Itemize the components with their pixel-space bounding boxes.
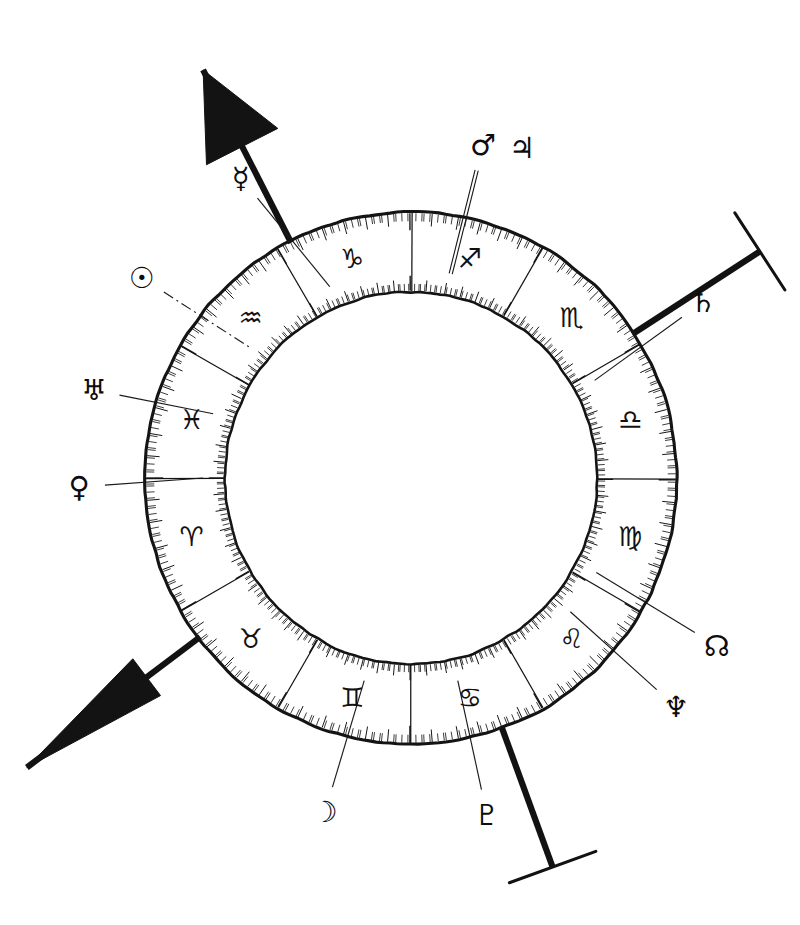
inner-degree-tick <box>217 463 224 464</box>
outer-degree-tick <box>147 498 155 499</box>
outer-degree-tick <box>628 337 635 341</box>
outer-degree-tick <box>597 655 603 661</box>
outer-degree-tick <box>655 396 663 398</box>
outer-degree-tick <box>659 523 671 525</box>
outer-degree-tick <box>661 415 669 417</box>
outer-degree-tick <box>185 341 192 345</box>
inner-degree-tick <box>248 580 254 584</box>
outer-degree-tick <box>657 404 665 406</box>
outer-degree-tick <box>346 727 348 735</box>
outer-degree-tick <box>598 297 604 302</box>
outer-degree-tick <box>620 324 626 329</box>
inner-degree-tick <box>426 665 427 676</box>
inner-degree-tick <box>272 611 280 619</box>
outer-degree-tick <box>147 456 159 457</box>
inner-degree-tick <box>223 431 230 433</box>
inner-degree-tick <box>357 291 359 298</box>
inner-degree-tick <box>238 563 244 566</box>
inner-degree-tick <box>579 560 585 563</box>
outer-degree-tick <box>365 727 367 739</box>
inner-degree-tick <box>566 370 572 374</box>
inner-degree-tick <box>450 288 451 295</box>
inner-degree-tick <box>426 280 427 291</box>
inner-degree-tick <box>342 297 345 304</box>
inner-degree-tick <box>388 285 389 292</box>
outer-degree-tick <box>226 288 232 294</box>
outer-degree-tick <box>202 636 208 641</box>
outer-degree-tick <box>665 517 673 518</box>
outer-degree-tick <box>151 527 159 529</box>
outer-degree-tick <box>497 229 501 241</box>
outer-degree-tick <box>148 450 156 451</box>
inner-degree-tick <box>561 591 567 595</box>
inner-degree-tick <box>372 661 373 668</box>
inner-degree-tick <box>597 454 604 455</box>
outer-degree-tick <box>662 453 674 454</box>
outer-degree-tick <box>648 375 655 378</box>
outer-degree-tick <box>612 314 618 319</box>
outer-degree-tick <box>266 257 270 264</box>
outer-degree-tick <box>472 221 474 229</box>
outer-degree-tick <box>555 259 559 266</box>
outer-degree-tick <box>568 268 573 274</box>
inner-degree-tick <box>216 509 227 511</box>
outer-degree-tick <box>667 451 675 452</box>
outer-degree-tick <box>655 543 667 546</box>
inner-degree-tick <box>594 438 601 439</box>
outer-degree-tick <box>657 402 665 404</box>
inner-degree-tick <box>583 402 589 405</box>
inner-degree-tick <box>460 659 463 670</box>
inner-degree-tick <box>373 662 374 669</box>
inner-degree-tick <box>373 288 374 295</box>
inner-degree-tick <box>342 653 345 660</box>
planet-glyph-saturn: ♄ <box>690 285 716 319</box>
outer-degree-tick <box>189 334 196 338</box>
inner-degree-tick <box>554 350 562 357</box>
inner-degree-tick <box>495 304 498 310</box>
outer-degree-tick <box>456 217 458 229</box>
inner-degree-tick <box>279 615 284 620</box>
inner-degree-tick <box>529 327 533 332</box>
inner-degree-tick <box>357 658 359 665</box>
outer-degree-tick <box>316 231 319 238</box>
planet-glyph-jupiter: ♃ <box>509 131 535 165</box>
outer-degree-tick <box>451 732 452 740</box>
inner-degree-tick <box>597 460 608 461</box>
outer-degree-tick <box>583 669 588 675</box>
inner-degree-tick <box>361 659 364 670</box>
inner-degree-tick <box>231 548 237 551</box>
outer-degree-tick <box>534 693 542 708</box>
inner-degree-tick <box>536 334 541 339</box>
inner-degree-tick <box>216 445 227 447</box>
outer-degree-tick <box>611 639 617 644</box>
outer-degree-tick <box>215 651 221 656</box>
inner-degree-tick <box>577 389 583 392</box>
inner-degree-tick <box>361 286 364 297</box>
inner-degree-tick <box>219 504 226 505</box>
outer-degree-tick <box>443 733 444 741</box>
inner-degree-tick <box>264 351 269 356</box>
inner-degree-tick <box>430 285 431 292</box>
outer-degree-tick <box>290 707 294 714</box>
outer-degree-tick <box>665 439 673 440</box>
inner-degree-tick <box>595 512 602 513</box>
outer-degree-tick <box>477 222 480 234</box>
inner-degree-tick <box>231 405 237 408</box>
inner-degree-tick <box>279 336 284 341</box>
inner-degree-tick <box>446 662 447 669</box>
inner-degree-tick <box>254 588 260 592</box>
planet-glyph-moon: ☽ <box>312 795 338 829</box>
inner-degree-tick <box>595 442 602 443</box>
outer-degree-tick <box>165 379 172 382</box>
outer-degree-tick <box>666 445 674 446</box>
inner-degree-tick <box>516 317 520 323</box>
inner-degree-tick <box>218 457 225 458</box>
inner-degree-tick <box>332 301 335 307</box>
planet-glyph-north-node: ☊ <box>704 629 730 663</box>
sign-glyph-aries: ♈ <box>180 521 204 552</box>
inner-degree-tick <box>460 287 463 298</box>
outer-degree-tick <box>604 640 614 648</box>
inner-degree-tick <box>566 582 572 586</box>
outer-degree-tick <box>531 705 535 712</box>
inner-degree-tick <box>237 392 243 395</box>
